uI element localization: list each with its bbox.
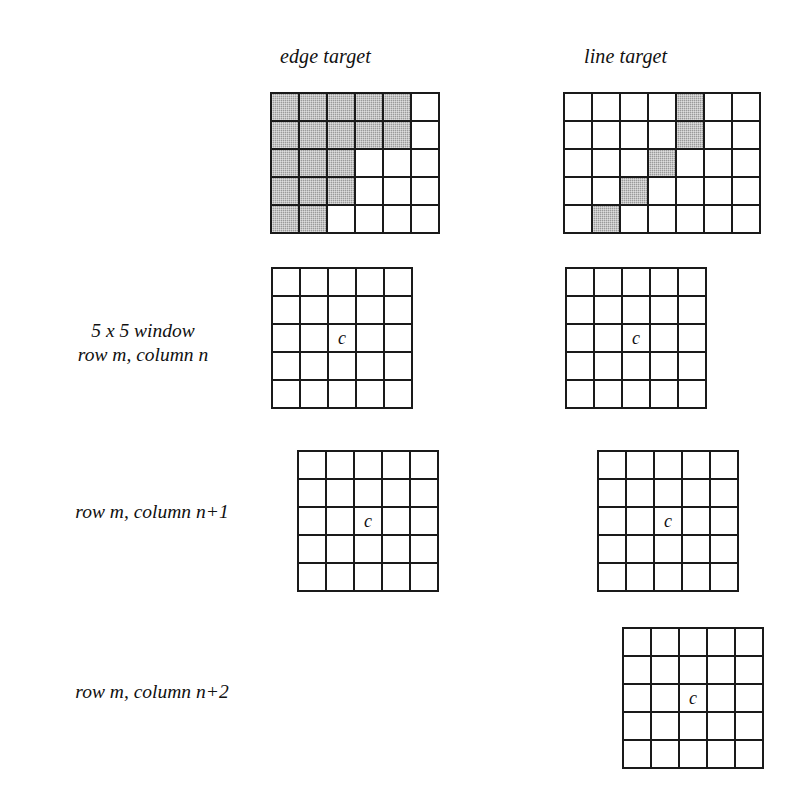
- grid-cell-shaded: [328, 94, 356, 122]
- grid-line-window-row-m-column-n-plus-1: c: [597, 450, 739, 592]
- grid-cell: [357, 325, 385, 353]
- grid-cell: [680, 741, 708, 769]
- grid-cell: [621, 94, 649, 122]
- grid-cell: [736, 713, 764, 741]
- grid-cell: [627, 508, 655, 536]
- grid-cell: [736, 741, 764, 769]
- row-label-window-line1: 5 x 5 window: [48, 319, 238, 343]
- grid-cell: [733, 150, 761, 178]
- grid-cell: [385, 353, 413, 381]
- grid-cell: [705, 94, 733, 122]
- grid-cell: [299, 564, 327, 592]
- grid-cell: [299, 536, 327, 564]
- grid-cell: [655, 480, 683, 508]
- grid-cell: [301, 381, 329, 409]
- grid-cell: [679, 297, 707, 325]
- grid-cell-shaded: [593, 206, 621, 234]
- grid-cell: [567, 353, 595, 381]
- grid-cell: [327, 564, 355, 592]
- grid-cell: [711, 480, 739, 508]
- grid-cell: [299, 480, 327, 508]
- grid-cell: [301, 325, 329, 353]
- grid-line-target: [563, 92, 761, 234]
- grid-cell: [655, 564, 683, 592]
- grid-cell: [599, 508, 627, 536]
- grid-cell: [683, 452, 711, 480]
- column-heading-edge-target: edge target: [280, 46, 371, 66]
- grid-cell: [595, 381, 623, 409]
- grid-cell: [412, 94, 440, 122]
- grid-cell-shaded: [272, 150, 300, 178]
- grid-cell: [711, 564, 739, 592]
- grid-cell: [705, 122, 733, 150]
- grid-cell: [705, 206, 733, 234]
- grid-cell: [357, 353, 385, 381]
- grid-cell-shaded: [677, 94, 705, 122]
- grid-cell: [652, 713, 680, 741]
- grid-cell-shaded: [328, 150, 356, 178]
- grid-cell: [273, 269, 301, 297]
- grid-cell: [595, 353, 623, 381]
- grid-cell: [649, 122, 677, 150]
- grid-cell: [649, 94, 677, 122]
- grid-cell: [327, 480, 355, 508]
- grid-cell: [621, 150, 649, 178]
- row-label-column-n-plus-1: row m, column n+1: [48, 500, 256, 524]
- grid-cell: [356, 150, 384, 178]
- grid-cell: [655, 536, 683, 564]
- grid-cell: [677, 150, 705, 178]
- grid-cell: [593, 94, 621, 122]
- grid-edge-window-row-m-column-n: c: [271, 267, 413, 409]
- grid-cell: [593, 178, 621, 206]
- grid-cell: [623, 381, 651, 409]
- grid-cell: [567, 325, 595, 353]
- grid-cell: [655, 452, 683, 480]
- grid-cell: [627, 452, 655, 480]
- grid-cell: [356, 178, 384, 206]
- grid-cell: [736, 657, 764, 685]
- grid-cell-shaded: [300, 178, 328, 206]
- grid-cell: [651, 269, 679, 297]
- grid-cell: [680, 713, 708, 741]
- grid-cell-shaded: [300, 150, 328, 178]
- grid-cell: [565, 178, 593, 206]
- grid-cell: [711, 452, 739, 480]
- grid-cell: [355, 480, 383, 508]
- grid-cell: [733, 122, 761, 150]
- grid-cell: [593, 150, 621, 178]
- grid-cell: [385, 325, 413, 353]
- grid-cell-shaded: [300, 94, 328, 122]
- grid-cell: [385, 269, 413, 297]
- grid-cell: [299, 508, 327, 536]
- grid-cell: [383, 480, 411, 508]
- grid-cell: [273, 353, 301, 381]
- grid-cell: [383, 536, 411, 564]
- grid-cell: [328, 206, 356, 234]
- center-pixel-marker: c: [655, 512, 681, 530]
- grid-cell: [565, 94, 593, 122]
- grid-cell: [595, 269, 623, 297]
- grid-cell-shaded: [384, 122, 412, 150]
- grid-line-window-row-m-column-n-plus-2: c: [622, 627, 764, 769]
- grid-cell: [621, 206, 649, 234]
- grid-cell: [329, 353, 357, 381]
- grid-cell: [329, 269, 357, 297]
- grid-cell: [651, 325, 679, 353]
- grid-cell-shaded: [272, 122, 300, 150]
- grid-cell: [595, 325, 623, 353]
- grid-cell: [708, 685, 736, 713]
- grid-cell: [412, 206, 440, 234]
- figure-canvas: edge target line target 5 x 5 window row…: [0, 0, 794, 807]
- grid-cell: [679, 325, 707, 353]
- grid-cell: [565, 122, 593, 150]
- grid-cell: [411, 508, 439, 536]
- grid-cell: [649, 178, 677, 206]
- grid-cell: [329, 381, 357, 409]
- grid-cell: [683, 508, 711, 536]
- grid-cell: [301, 269, 329, 297]
- grid-cell: [599, 536, 627, 564]
- grid-cell: [565, 150, 593, 178]
- grid-cell: [679, 353, 707, 381]
- grid-edge-window-row-m-column-n-plus-1: c: [297, 450, 439, 592]
- grid-cell: [624, 685, 652, 713]
